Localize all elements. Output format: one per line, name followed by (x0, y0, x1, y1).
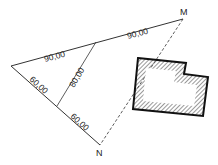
point-n-label: N (96, 148, 103, 158)
site-plan-diagram: M N 90,00 90,00 80,00 60,00 60,00 (0, 0, 218, 165)
dim-bottom-lower: 60,00 (69, 111, 92, 133)
dim-bottom-upper: 60,00 (28, 74, 51, 96)
edge-left-to-m (11, 19, 183, 66)
dim-top-left: 90,00 (43, 49, 66, 64)
dim-top-right: 90,00 (126, 26, 149, 41)
building (133, 58, 208, 116)
edge-left-to-n (11, 66, 100, 145)
dim-middle: 80,00 (67, 65, 86, 89)
point-m-label: M (180, 7, 188, 17)
diagram-svg: M N 90,00 90,00 80,00 60,00 60,00 (0, 0, 218, 165)
